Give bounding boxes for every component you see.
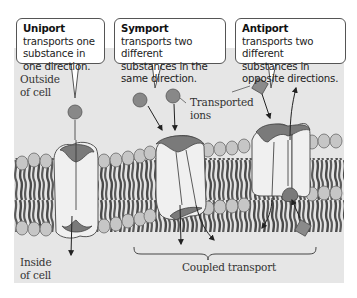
symport-ion-2-icon [166,89,180,103]
coupled-transport-label: Coupled transport [182,261,276,274]
uniport-description: transports one substance in one directio… [23,36,95,72]
uniport-ion-icon [68,105,82,119]
inside-of-cell-label: Inside of cell [20,256,51,281]
symport-in-arrow-1-icon [148,106,162,130]
coupled-transport-brace [134,247,316,260]
uniport-protein [54,140,98,238]
antiport-description: transports two different substances in o… [242,36,338,85]
antiport-in-arrow-icon [262,94,270,118]
uniport-callout: Uniport transports one substance in one … [16,18,105,64]
antiport-callout: Antiport transports two different substa… [235,18,346,64]
uniport-term: Uniport [23,23,65,34]
symport-in-arrow-2-icon [174,104,175,130]
antiport-term: Antiport [242,23,288,34]
membrane-transport-diagram: Uniport transports one substance in one … [0,0,357,298]
symport-protein [156,135,206,220]
outside-of-cell-label: Outside of cell [20,73,60,98]
symport-callout: Symport transports two different substan… [114,18,226,64]
symport-description: transports two different substances in t… [121,36,208,85]
transported-ions-label: Transported ions [190,96,253,121]
symport-term: Symport [121,23,168,34]
symport-ion-1-icon [133,93,147,107]
antiport-protein [252,124,310,202]
